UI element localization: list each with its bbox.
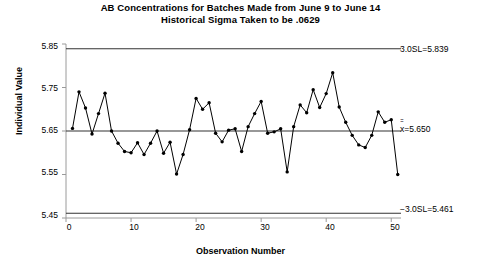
plot-area <box>0 0 481 269</box>
data-point <box>220 140 223 143</box>
data-point <box>285 170 288 173</box>
data-point <box>272 130 275 133</box>
data-point <box>298 103 301 106</box>
data-point <box>136 141 139 144</box>
data-point <box>97 112 100 115</box>
data-point <box>364 146 367 149</box>
data-point <box>383 121 386 124</box>
data-point <box>77 90 80 93</box>
data-point <box>123 150 126 153</box>
data-point <box>390 118 393 121</box>
data-point <box>331 71 334 74</box>
data-point <box>168 141 171 144</box>
data-point-markers <box>71 71 400 176</box>
data-point <box>155 129 158 132</box>
data-point <box>175 172 178 175</box>
data-point <box>103 91 106 94</box>
data-point <box>71 127 74 130</box>
control-limit-lines <box>66 49 401 213</box>
data-point <box>129 151 132 154</box>
data-point <box>318 106 321 109</box>
data-point <box>227 128 230 131</box>
data-point <box>110 129 113 132</box>
data-point <box>266 131 269 134</box>
data-point <box>292 125 295 128</box>
data-point <box>181 153 184 156</box>
data-point <box>233 127 236 130</box>
data-point <box>351 134 354 137</box>
data-point <box>149 141 152 144</box>
data-point <box>240 150 243 153</box>
data-point <box>279 127 282 130</box>
data-point <box>116 141 119 144</box>
data-point <box>246 125 249 128</box>
data-point <box>305 111 308 114</box>
data-point <box>338 105 341 108</box>
data-point <box>194 97 197 100</box>
data-point <box>357 143 360 146</box>
data-point <box>142 153 145 156</box>
data-point <box>207 101 210 104</box>
data-point <box>214 131 217 134</box>
data-point <box>90 132 93 135</box>
data-point <box>201 108 204 111</box>
data-point <box>253 112 256 115</box>
data-point <box>324 92 327 95</box>
data-point <box>259 100 262 103</box>
data-series-line <box>73 73 398 175</box>
data-point <box>162 151 165 154</box>
control-chart: AB Concentrations for Batches Made from … <box>0 0 481 269</box>
data-point <box>311 88 314 91</box>
data-point <box>396 173 399 176</box>
data-point <box>84 106 87 109</box>
data-point <box>188 128 191 131</box>
data-point <box>377 110 380 113</box>
data-point <box>344 121 347 124</box>
data-point <box>370 134 373 137</box>
